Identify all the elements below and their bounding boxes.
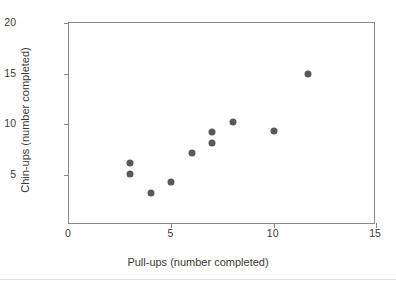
y-axis-tick-label: 15 [0, 67, 16, 78]
data-point [147, 189, 154, 196]
data-point [168, 178, 175, 185]
y-axis-tick [64, 175, 69, 176]
x-axis-tick-label: 0 [53, 228, 83, 239]
y-axis-tick-label: 20 [0, 17, 16, 28]
data-point [209, 140, 216, 147]
scatter-plot-figure: Chin-ups (number completed) Pull-ups (nu… [0, 0, 396, 287]
plot-frame [68, 22, 375, 224]
y-axis-tick [64, 74, 69, 75]
data-point [209, 129, 216, 136]
y-axis-tick [64, 124, 69, 125]
data-point [305, 70, 312, 77]
x-axis-tick-label: 15 [360, 228, 390, 239]
data-point [270, 128, 277, 135]
x-axis-tick-label: 5 [155, 228, 185, 239]
y-axis-tick-label: 10 [0, 118, 16, 129]
x-axis-tick-label: 10 [258, 228, 288, 239]
plot-area [69, 23, 374, 223]
data-point [127, 170, 134, 177]
y-axis-title: Chin-ups (number completed) [19, 20, 31, 220]
data-point [127, 160, 134, 167]
data-point [229, 118, 236, 125]
y-axis-tick [64, 23, 69, 24]
footer-divider [0, 279, 396, 280]
x-axis-title: Pull-ups (number completed) [0, 256, 396, 268]
data-point [188, 150, 195, 157]
y-axis-tick-label: 5 [0, 168, 16, 179]
